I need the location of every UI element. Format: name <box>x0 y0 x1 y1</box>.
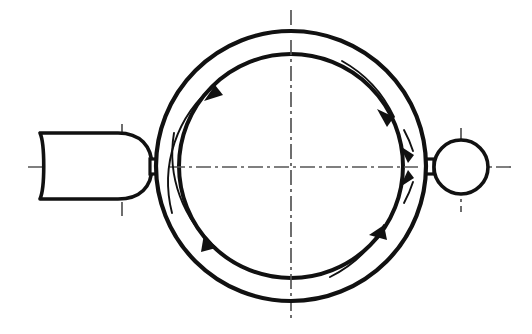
right-circle-boss <box>434 140 488 194</box>
technical-drawing-svg <box>0 0 532 334</box>
drawing-canvas: Annular Flow Ring Assembly — Engineering… <box>0 0 532 334</box>
left-capsule-outline <box>40 133 152 199</box>
